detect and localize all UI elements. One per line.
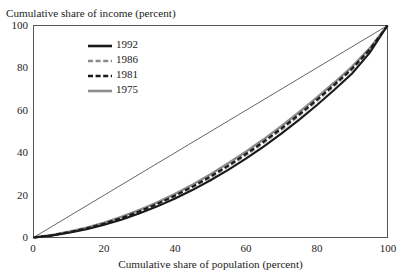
y-tick-20: 20: [2, 190, 28, 201]
legend-swatch-dashed-icon: [88, 53, 112, 65]
x-tick-20: 20: [89, 243, 119, 254]
legend-label: 1992: [116, 38, 138, 50]
legend-item-1986[interactable]: 1986: [88, 53, 138, 65]
legend-item-1981[interactable]: 1981: [88, 68, 138, 80]
series-layer: [34, 26, 388, 238]
legend: 1992198619811975: [88, 38, 138, 98]
legend-label: 1986: [116, 53, 138, 65]
x-tick-80: 80: [302, 243, 332, 254]
x-axis-label: Cumulative share of population (percent): [33, 258, 388, 271]
x-tick-0: 0: [18, 243, 48, 254]
y-tick-0: 0: [2, 232, 28, 243]
x-tick-60: 60: [231, 243, 261, 254]
legend-swatch-solid-icon: [88, 38, 112, 50]
legend-swatch-dashed-icon: [88, 68, 112, 80]
line-of-equality: [34, 26, 388, 238]
legend-label: 1981: [116, 68, 138, 80]
legend-item-1992[interactable]: 1992: [88, 38, 138, 50]
y-tick-40: 40: [2, 147, 28, 158]
legend-label: 1975: [116, 83, 138, 95]
y-tick-80: 80: [2, 62, 28, 73]
legend-swatch-solid-icon: [88, 83, 112, 95]
y-tick-60: 60: [2, 105, 28, 116]
y-tick-100: 100: [2, 20, 28, 31]
x-tick-40: 40: [160, 243, 190, 254]
x-tick-100: 100: [373, 243, 403, 254]
plot-canvas: [0, 0, 406, 280]
legend-item-1975[interactable]: 1975: [88, 83, 138, 95]
lorenz-curve-figure: Cumulative share of income (percent) 100…: [0, 0, 406, 280]
